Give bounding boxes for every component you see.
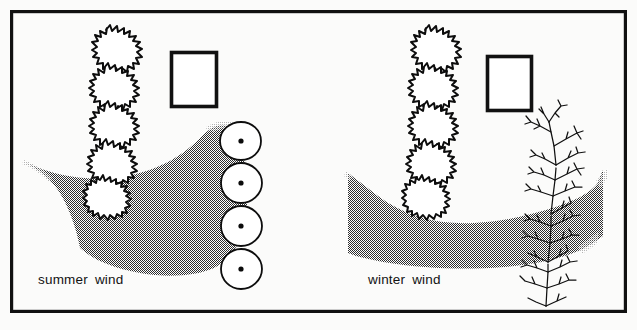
plan-tree [221, 249, 262, 289]
plan-tree [221, 206, 262, 246]
winter-wind-label: winter wind [367, 272, 441, 287]
plan-tree-center-dot [238, 138, 243, 143]
building-footprint-winter [488, 57, 532, 111]
plan-tree-center-dot [238, 180, 243, 185]
plan-tree-center-dot [238, 266, 243, 271]
plan-tree [220, 122, 261, 160]
plan-tree-center-dot [238, 223, 243, 228]
building-footprint-summer [172, 53, 217, 107]
summer-wind-label: summer wind [38, 272, 123, 287]
diagram-canvas: summer wind [0, 0, 637, 330]
wind-diagram-figure: summer wind [0, 0, 637, 330]
plan-tree [221, 163, 262, 203]
